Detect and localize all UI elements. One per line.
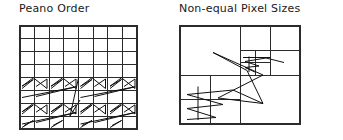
path-seg (110, 104, 122, 115)
peano-order-diagram (0, 0, 171, 140)
path-seg (22, 104, 33, 115)
path-seg (51, 121, 63, 128)
path-seg (110, 121, 122, 128)
path-seg (81, 104, 93, 115)
panel-non-equal-pixel-sizes: Non-equal Pixel Sizes (171, 0, 343, 140)
path-seg (187, 105, 223, 109)
path-seg (187, 109, 216, 118)
path-connector (36, 87, 76, 97)
peano-grid (20, 26, 137, 129)
path-seg (33, 104, 47, 115)
path-connector (95, 113, 136, 123)
figure-root: Peano Order (0, 0, 343, 140)
path-seg (51, 104, 63, 115)
path-seg (187, 118, 216, 120)
path-seg (245, 62, 259, 67)
path-seg (51, 78, 63, 89)
path-seg (22, 78, 33, 89)
panel-peano-order: Peano Order (0, 0, 171, 140)
path-seg (92, 78, 106, 89)
path-seg (81, 78, 93, 89)
non-equal-pixel-sizes-diagram (171, 0, 343, 140)
path-seg (110, 78, 122, 89)
path-seg (266, 58, 284, 63)
path-seg (92, 104, 106, 115)
path-seg (33, 78, 47, 89)
path-connector (95, 87, 136, 97)
path-seg (245, 66, 259, 68)
path-connector (36, 113, 76, 123)
